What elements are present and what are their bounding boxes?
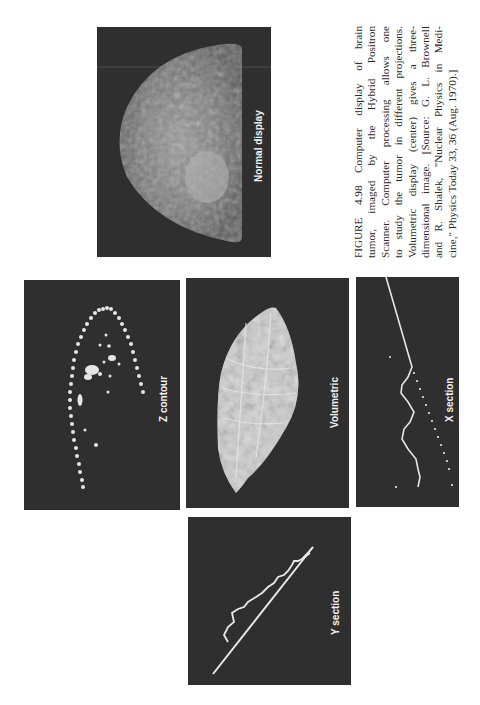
brain-scan-image bbox=[97, 27, 271, 257]
caption-line: dimensional image. [Source: G. L. Browne… bbox=[419, 26, 432, 258]
caption-line: to study the tumor in different projecti… bbox=[392, 26, 405, 258]
x-section-label: X section bbox=[444, 378, 455, 422]
caption-line: cine," Physics Today 33, 36 (Aug. 1970).… bbox=[446, 26, 459, 258]
volumetric-render bbox=[186, 278, 349, 508]
figure-caption: FIGURE 4.98 Computer display of brain tu… bbox=[352, 26, 460, 258]
z-contour-label: Z contour bbox=[158, 376, 169, 422]
caption-line: Scanner. Computer processing allows one bbox=[379, 26, 392, 258]
normal-display-label: Normal display bbox=[253, 110, 264, 182]
caption-line: Volumetric display (center) gives a thre… bbox=[406, 26, 419, 258]
caption-line: tumor, imaged by the Hybrid Positron bbox=[365, 26, 378, 258]
caption-line: and R. Shalek, "Nuclear Physics in Medi- bbox=[432, 26, 445, 258]
y-section-panel: Y section bbox=[188, 517, 351, 685]
x-section-panel: X section bbox=[356, 277, 459, 507]
normal-display-panel: Normal display bbox=[97, 27, 271, 257]
y-section-label: Y section bbox=[330, 591, 341, 635]
z-contour-plot bbox=[24, 280, 180, 510]
y-section-plot bbox=[188, 517, 351, 685]
z-contour-panel: Z contour bbox=[24, 280, 180, 510]
volumetric-label: Volumetric bbox=[329, 377, 340, 428]
caption-line: FIGURE 4.98 Computer display of brain bbox=[352, 26, 365, 258]
volumetric-panel: Volumetric bbox=[186, 278, 349, 508]
